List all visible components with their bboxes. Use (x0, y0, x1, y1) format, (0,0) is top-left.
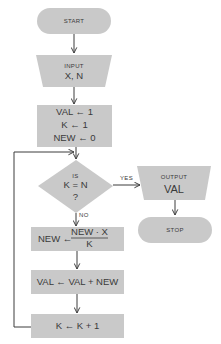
decision-line-2: K = N (38, 180, 113, 190)
no-label: NO (79, 212, 93, 219)
update-val-label: VAL ← VAL + NEW (31, 277, 124, 287)
input-title: INPUT (36, 63, 112, 70)
yes-label: YES (113, 175, 140, 182)
start-label: START (37, 18, 111, 25)
update-new-denominator: K (71, 239, 108, 249)
update-new-numerator: NEW · X (71, 227, 108, 237)
init-line-1: VAL ← 1 (37, 107, 112, 117)
decision-line-3: ? (38, 192, 113, 202)
output-var: VAL (137, 183, 211, 195)
flowchart-canvas (0, 0, 221, 344)
increment-k-label: K ← K + 1 (31, 321, 124, 331)
init-line-2: K ← 1 (37, 120, 112, 130)
stop-label: STOP (138, 227, 212, 234)
output-title: OUTPUT (137, 174, 211, 181)
init-line-3: NEW ← 0 (37, 133, 112, 143)
input-vars: X, N (36, 71, 112, 81)
update-new-lhs: NEW ← (38, 234, 72, 244)
